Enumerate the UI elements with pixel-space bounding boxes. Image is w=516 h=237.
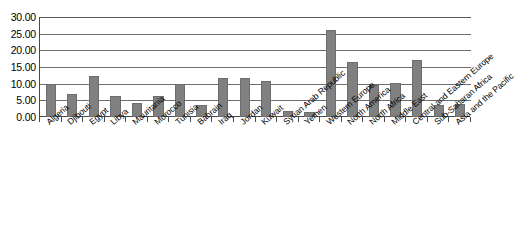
y-tick-label: 25.00 — [0, 29, 36, 39]
y-axis: 30.0025.0020.0015.0010.005.000.00 — [0, 0, 36, 130]
y-tick-label: 10.00 — [0, 79, 36, 89]
y-tick-label: 20.00 — [0, 45, 36, 55]
bars — [40, 17, 471, 117]
y-tick-label: 30.00 — [0, 12, 36, 22]
x-axis: AlgeriaDjiboutiEgyptLibyaMauritaniaMoroc… — [0, 120, 483, 237]
y-tick-label: 15.00 — [0, 62, 36, 72]
y-tick-label: 5.00 — [0, 95, 36, 105]
plot-area — [39, 17, 470, 117]
